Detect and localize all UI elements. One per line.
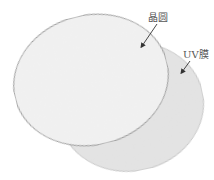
wafer-label: 晶圆 [148,12,168,23]
wafer-uv-film-diagram: 晶圆 UV膜 [0,0,214,180]
uv-film-label: UV膜 [183,49,209,60]
